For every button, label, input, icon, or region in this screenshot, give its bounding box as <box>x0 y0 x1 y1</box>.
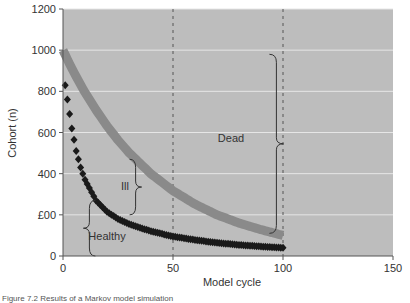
y-tick-label: 0 <box>50 250 56 262</box>
x-tick-label: 50 <box>167 262 179 274</box>
healthy-label: Healthy <box>88 230 126 242</box>
y-tick-label: 1200 <box>32 3 56 15</box>
x-tick-label: 100 <box>274 262 292 274</box>
x-tick-label: 150 <box>384 262 402 274</box>
y-tick-label: £00 <box>38 209 56 221</box>
y-tick-label: 600 <box>38 127 56 139</box>
x-tick-label: 0 <box>60 262 66 274</box>
y-tick-label: 1000 <box>32 44 56 56</box>
dead-label: Dead <box>218 132 244 144</box>
y-tick-label: 400 <box>38 168 56 180</box>
figure-caption: Figure 7.2 Results of a Markov model sim… <box>2 294 173 303</box>
ill-label: Ill <box>121 180 129 192</box>
x-axis-title: Model cycle <box>203 276 261 288</box>
y-tick-label: 800 <box>38 85 56 97</box>
y-axis-title: Cohort (n) <box>6 108 18 158</box>
x-ticks: 050100150 <box>60 256 402 274</box>
y-ticks: 0£0040060080010001200 <box>32 3 63 262</box>
